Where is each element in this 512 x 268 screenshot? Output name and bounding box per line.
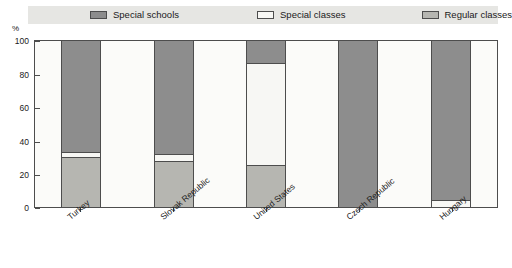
- bar-group: [220, 41, 312, 207]
- legend-swatch-icon-special-schools: [90, 11, 107, 19]
- chart-legend: Special schools Special classes Regular …: [28, 6, 498, 24]
- stacked-bar[interactable]: [246, 41, 286, 207]
- x-axis-label-slot: Slovak Republic: [127, 209, 220, 268]
- bar-segment[interactable]: [339, 41, 377, 207]
- y-axis-unit-label: %: [12, 25, 19, 33]
- stacked-bar[interactable]: [61, 41, 101, 207]
- x-axis-label-slot: Czech Republic: [312, 209, 405, 268]
- y-tick-label-0: 0: [24, 204, 29, 213]
- bar-segment[interactable]: [62, 41, 100, 152]
- bar-group: [35, 41, 127, 207]
- y-tick-label-40: 40: [20, 138, 29, 147]
- legend-label-regular-classes: Regular classes: [445, 10, 512, 20]
- x-axis-label-slot: United States: [220, 209, 313, 268]
- chart-plot-area: 100 80 60 40 20 0: [34, 40, 498, 208]
- bar-segment[interactable]: [247, 41, 285, 63]
- bar-group: [405, 41, 497, 207]
- legend-item-regular-classes: Regular classes: [422, 6, 512, 24]
- bar-segment[interactable]: [155, 154, 193, 161]
- bar-segment[interactable]: [432, 41, 470, 200]
- legend-label-special-schools: Special schools: [113, 10, 179, 20]
- legend-item-special-schools: Special schools: [90, 6, 179, 24]
- x-axis-labels: TurkeySlovak RepublicUnited StatesCzech …: [34, 209, 498, 268]
- x-axis-label-slot: Hungary: [405, 209, 498, 268]
- stacked-bar[interactable]: [154, 41, 194, 207]
- y-tick-label-60: 60: [20, 104, 29, 113]
- stacked-bar[interactable]: [431, 41, 471, 207]
- legend-item-special-classes: Special classes: [257, 6, 345, 24]
- y-tick-label-80: 80: [20, 70, 29, 79]
- legend-swatch-icon-special-classes: [257, 11, 274, 19]
- y-tick-label-20: 20: [20, 171, 29, 180]
- bar-segment[interactable]: [247, 63, 285, 166]
- bar-segment[interactable]: [155, 41, 193, 154]
- stacked-bar[interactable]: [338, 41, 378, 207]
- legend-label-special-classes: Special classes: [280, 10, 345, 20]
- bar-series-container: [35, 41, 497, 207]
- legend-swatch-icon-regular-classes: [422, 11, 439, 19]
- x-axis-label-slot: Turkey: [34, 209, 127, 268]
- y-tick-label-100: 100: [15, 37, 29, 46]
